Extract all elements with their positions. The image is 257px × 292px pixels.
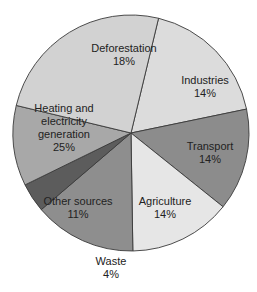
- pie-chart: Deforestation18%Industries14%Transport14…: [0, 0, 257, 292]
- slice-label-waste: Waste4%: [96, 255, 127, 280]
